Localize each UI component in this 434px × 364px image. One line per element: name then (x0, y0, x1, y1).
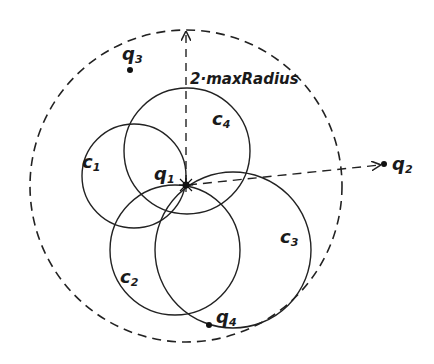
point-q1 (179, 178, 193, 192)
label-max-radius: 2·maxRadius (190, 70, 299, 88)
arrow-to-q2 (188, 165, 380, 185)
circle-c3 (155, 172, 311, 328)
label-c2: c2 (120, 266, 139, 289)
circle-c4 (124, 88, 250, 214)
label-q2: q2 (392, 153, 413, 176)
label-c3: c3 (280, 226, 299, 249)
point-q3 (127, 67, 133, 73)
circle-c2 (110, 185, 240, 315)
point-q4 (206, 322, 212, 328)
label-q4: q4 (216, 306, 237, 329)
label-q1: q1 (154, 163, 175, 186)
diagram-canvas: q1 q2 q3 q4 c1 c2 c3 c4 2·maxRadius (0, 0, 434, 364)
label-c4: c4 (212, 108, 230, 131)
label-c1: c1 (82, 151, 100, 174)
label-q3: q3 (122, 43, 143, 66)
point-q2 (381, 161, 387, 167)
